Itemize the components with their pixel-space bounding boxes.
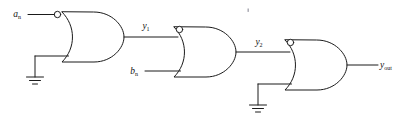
gate-3-or-body [285, 40, 347, 90]
gate-3-group[interactable] [258, 39, 378, 90]
gate-1-group[interactable] [28, 11, 178, 62]
circuit-diagram-canvas: an bn y1 y2 yout [0, 0, 405, 126]
ground-1-group [27, 56, 44, 84]
print-artifact-speck [248, 9, 249, 12]
label-node-y2: y2 [254, 37, 262, 48]
ground-2-group [250, 84, 267, 112]
gate-2-or-body [174, 27, 236, 77]
gate-1-input-inversion-bubble [54, 11, 60, 17]
label-node-y1: y1 [141, 21, 149, 32]
schematic-svg: an bn y1 y2 yout [0, 0, 405, 126]
label-input-a: an [13, 9, 21, 20]
gate-1-or-body [62, 12, 124, 62]
label-output-y: yout [379, 60, 392, 71]
gate-2-input-inversion-bubble [176, 26, 182, 32]
gate-3-input-inversion-bubble [287, 39, 293, 45]
label-input-b: bn [130, 66, 138, 77]
gate-2-group[interactable] [145, 26, 290, 77]
